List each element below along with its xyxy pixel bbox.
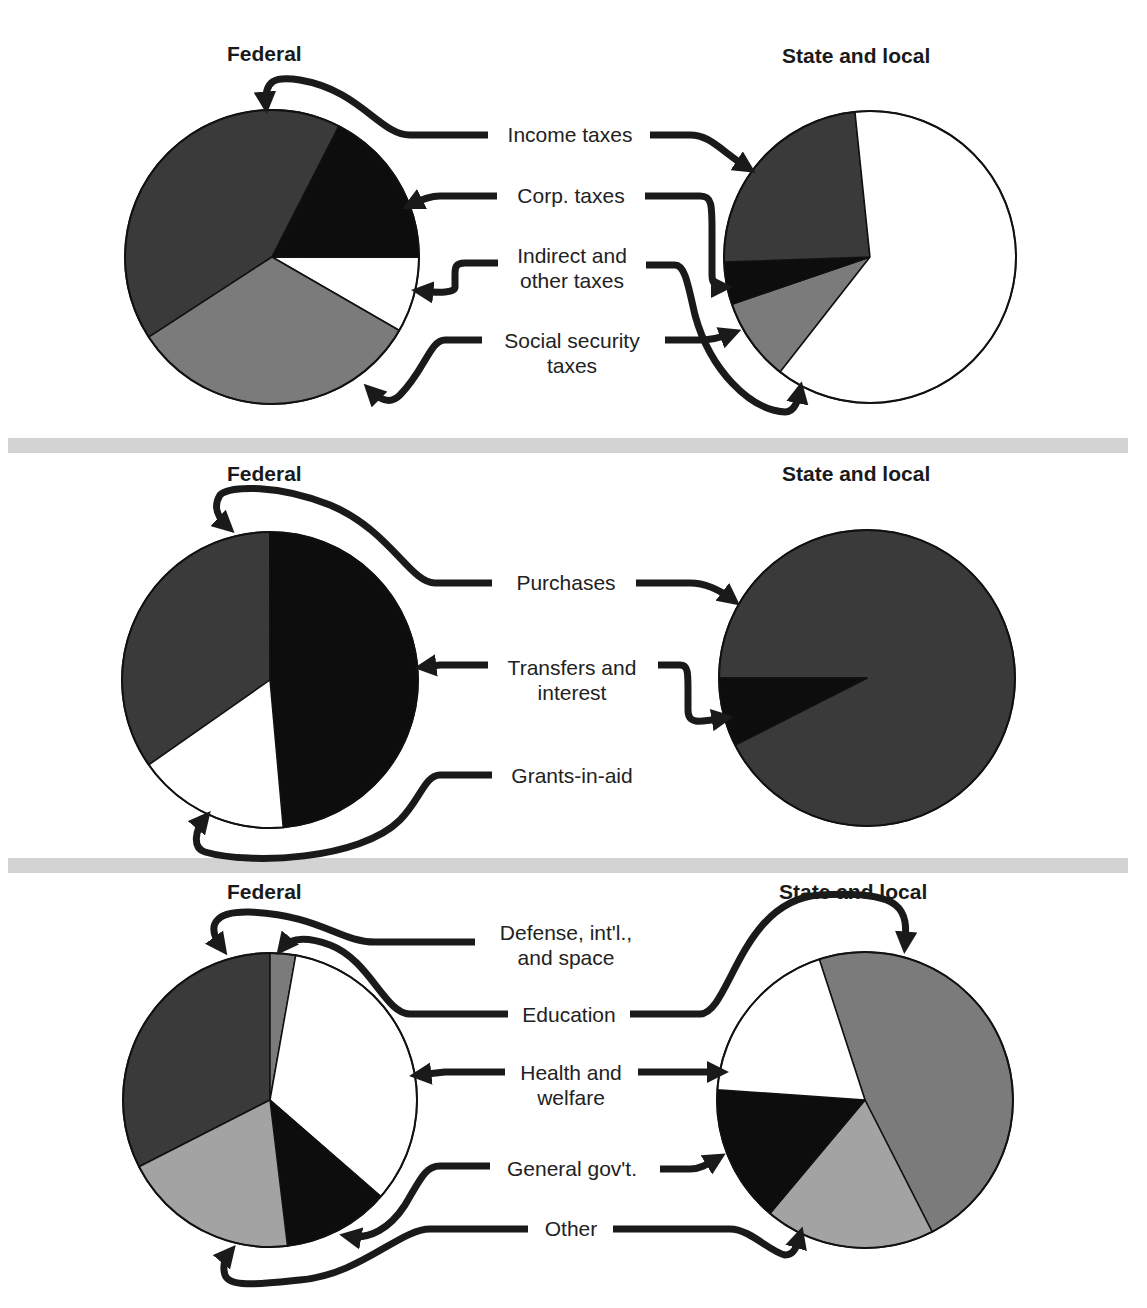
arrow-education-federal	[282, 939, 508, 1014]
label-education: Education	[522, 1002, 615, 1027]
state-title: State and local	[779, 880, 927, 904]
arrow-defense-federal	[214, 912, 475, 948]
label-corp-taxes: Corp. taxes	[517, 183, 624, 208]
arrow-purchases-state	[636, 583, 733, 600]
arrow-other-state	[613, 1229, 800, 1255]
label-other: Other	[545, 1216, 598, 1241]
federal-title: Federal	[227, 462, 302, 486]
arrow-ss-federal	[370, 340, 482, 400]
label-grants-in-aid: Grants-in-aid	[511, 763, 632, 788]
arrow-indirect-federal	[420, 263, 498, 292]
label-social-security-taxes: Social security taxes	[504, 328, 639, 378]
federal-title: Federal	[227, 42, 302, 66]
arrow-purchases-federal	[216, 488, 492, 583]
label-transfers-interest: Transfers and interest	[508, 655, 637, 705]
label-indirect-taxes: Indirect and other taxes	[517, 243, 627, 293]
state-title: State and local	[782, 44, 930, 68]
label-health-welfare: Health and welfare	[520, 1060, 622, 1110]
arrow-grants-federal	[196, 775, 492, 858]
label-income-taxes: Income taxes	[508, 122, 633, 147]
arrow-education-state	[630, 894, 906, 1014]
federal-title: Federal	[227, 880, 302, 904]
arrow-income-federal	[266, 79, 488, 135]
arrow-transfers-federal	[423, 665, 488, 667]
label-purchases: Purchases	[516, 570, 615, 595]
arrow-general-state	[660, 1158, 718, 1169]
arrow-transfers-state	[658, 665, 725, 721]
arrow-corp-federal	[410, 196, 497, 205]
arrow-other-federal	[224, 1229, 528, 1284]
arrow-health-federal	[418, 1072, 505, 1075]
label-general-govt: General gov't.	[507, 1156, 637, 1181]
arrow-income-state	[650, 135, 748, 168]
state-title: State and local	[782, 462, 930, 486]
label-defense: Defense, int'l., and space	[500, 920, 632, 970]
